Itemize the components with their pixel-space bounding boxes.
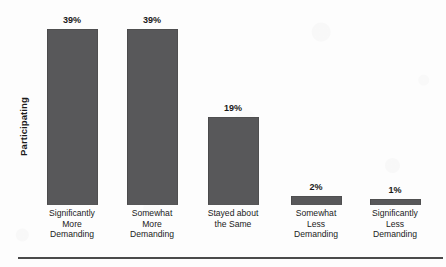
bar-value-label: 1% [388,185,401,196]
bar-column-4: 2% Somewhat Less Demanding [278,182,354,205]
bar-column-3: 19% Stayed about the Same [195,103,271,205]
bar-value-label: 19% [224,103,242,114]
bar-column-1: 39% Significantly More Demanding [34,15,110,205]
y-axis-title-label: Participating [18,97,29,156]
bar-rect[interactable] [291,196,342,205]
bar-value-label: 2% [309,182,322,193]
bottom-divider-rule [18,257,443,259]
bar-category-label: Somewhat Less Demanding [278,208,354,240]
bar-value-label: 39% [143,15,161,26]
y-axis-title: Participating [16,78,30,174]
bar-rect[interactable] [127,29,178,205]
bar-column-5: 1% Significantly Less Demanding [357,185,433,205]
bar-value-label: 39% [63,15,81,26]
bar-category-label: Stayed about the Same [195,208,271,229]
bar-column-2: 39% Somewhat More Demanding [114,15,190,205]
bar-rect[interactable] [47,29,98,205]
bar-category-label: Significantly Less Demanding [357,208,433,240]
plot-area: 39% Significantly More Demanding 39% Som… [34,8,438,248]
chart-page: Participating 39% Significantly More Dem… [0,0,446,267]
bar-category-label: Somewhat More Demanding [114,208,190,240]
bar-rect[interactable] [370,199,421,205]
bar-rect[interactable] [208,117,259,205]
bar-category-label: Significantly More Demanding [34,208,110,240]
